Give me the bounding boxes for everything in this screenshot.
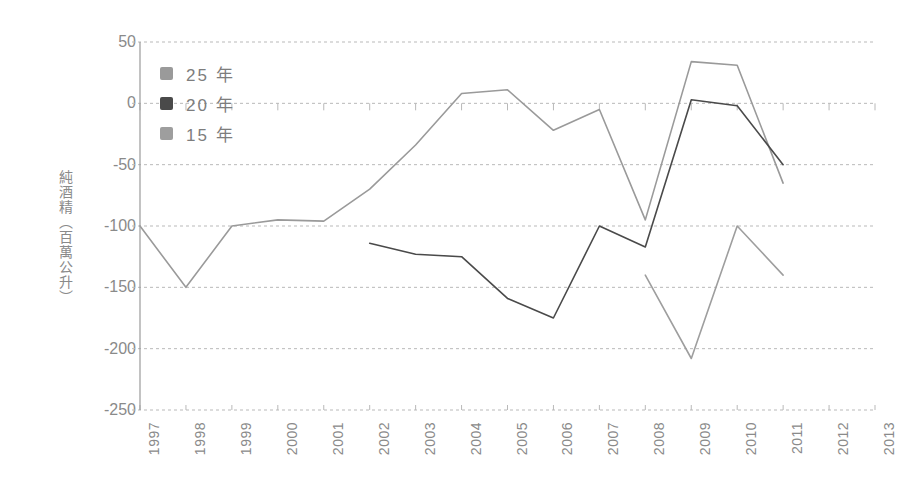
series-line-15年	[645, 226, 783, 359]
plot-area	[0, 0, 915, 489]
x-axis-tick-labels: 1997199819992000200120022003200420052006…	[0, 418, 915, 488]
x-tick-label: 2000	[284, 422, 300, 455]
legend-swatch-icon	[160, 127, 173, 140]
x-tick-label: 2011	[789, 422, 805, 454]
x-tick-label: 2012	[835, 422, 851, 455]
x-tick-label: 2001	[330, 422, 346, 455]
legend-swatch-icon	[160, 97, 173, 110]
legend-label: 20 年	[186, 91, 235, 116]
legend-item[interactable]: 20 年	[160, 88, 235, 118]
series-line-20年	[370, 100, 783, 318]
x-axis-ticks	[140, 103, 875, 410]
legend: 25 年20 年15 年	[160, 58, 235, 148]
x-tick-label: 2002	[376, 422, 392, 455]
x-tick-label: 2013	[881, 422, 897, 455]
series-line-25年	[140, 62, 783, 288]
legend-item[interactable]: 25 年	[160, 58, 235, 88]
x-tick-label: 2004	[468, 422, 484, 455]
x-tick-label: 2003	[422, 422, 438, 455]
x-tick-label: 2007	[605, 422, 621, 455]
x-tick-label: 2005	[514, 422, 530, 455]
x-tick-label: 2008	[651, 422, 667, 455]
x-tick-label: 2006	[559, 422, 575, 455]
legend-swatch-icon	[160, 67, 173, 80]
legend-label: 25 年	[186, 61, 235, 86]
legend-item[interactable]: 15 年	[160, 118, 235, 148]
gridlines	[132, 42, 875, 410]
x-tick-label: 1997	[146, 422, 162, 455]
x-tick-label: 2009	[697, 422, 713, 455]
x-tick-label: 2010	[743, 422, 759, 455]
chart-container: 純酒精（百萬公升） 500-50-100-150-200-250 1997199…	[0, 0, 915, 489]
legend-label: 15 年	[186, 121, 235, 146]
x-tick-label: 1999	[238, 422, 254, 455]
x-tick-label: 1998	[192, 422, 208, 455]
